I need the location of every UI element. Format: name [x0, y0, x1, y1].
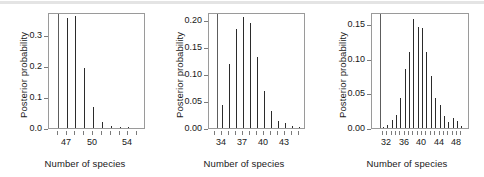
spike-bar: [222, 105, 223, 128]
x-axis-minor-tick: [256, 131, 257, 135]
spike-bar: [128, 127, 129, 128]
spike-bar: [435, 98, 436, 128]
x-axis-minor-tick: [404, 131, 405, 135]
panel-3-x-axis-title: Number of species: [342, 158, 472, 169]
y-axis-tick-label: 0.05: [176, 96, 202, 106]
x-axis-minor-tick: [235, 131, 236, 135]
x-axis-tick-label: 48: [444, 137, 468, 147]
spike-bar: [236, 29, 237, 128]
x-axis-minor-tick: [110, 131, 111, 135]
panel-1: Posterior probability Number of species …: [0, 0, 161, 177]
y-axis-tick-label: 0.15: [339, 19, 365, 29]
spike-bar: [67, 18, 68, 128]
x-axis-minor-tick: [417, 131, 418, 135]
y-axis-tick: [44, 36, 48, 37]
spike-bar: [405, 69, 406, 128]
x-axis-minor-tick: [456, 131, 457, 135]
panel-3-plot-area: [371, 13, 469, 129]
spike-bar: [84, 68, 85, 128]
x-axis-minor-tick: [221, 131, 222, 135]
x-axis-minor-tick: [127, 131, 128, 135]
panel-1-y-axis-title: Posterior probability: [18, 32, 29, 118]
posterior-probability-figure: Posterior probability Number of species …: [0, 0, 484, 177]
spike-bar: [444, 116, 445, 128]
panel-1-plot-area: [48, 13, 145, 129]
spike-bar: [440, 105, 441, 128]
panel-2-reference-line: [217, 14, 218, 128]
x-axis-minor-tick: [228, 131, 229, 135]
spike-bar: [299, 127, 300, 128]
x-axis-minor-tick: [439, 131, 440, 135]
x-axis-minor-tick: [395, 131, 396, 135]
x-axis-tick-label: 43: [272, 137, 296, 147]
y-axis-tick: [44, 129, 48, 130]
panel-3-reference-line: [380, 14, 381, 128]
spike-bar: [264, 91, 265, 128]
x-axis-minor-tick: [399, 131, 400, 135]
spike-bar: [75, 16, 76, 128]
spike-bar: [426, 52, 427, 128]
x-axis-tick-label: 54: [115, 137, 139, 147]
x-axis-minor-tick: [57, 131, 58, 135]
panel-2-spikes: [209, 14, 304, 128]
x-axis-minor-tick: [119, 131, 120, 135]
x-axis-minor-tick: [242, 131, 243, 135]
x-axis-minor-tick: [136, 131, 137, 135]
x-axis-tick-label: 47: [54, 137, 78, 147]
spike-bar: [448, 122, 449, 128]
spike-bar: [422, 28, 423, 128]
x-axis-minor-tick: [101, 131, 102, 135]
y-axis-tick-label: 0.20: [176, 15, 202, 25]
y-axis-tick: [204, 102, 208, 103]
spike-bar: [243, 17, 244, 128]
spike-bar: [93, 107, 94, 128]
spike-bar: [278, 121, 279, 128]
x-axis-minor-tick: [460, 131, 461, 135]
y-axis-tick-label: 0.00: [176, 123, 202, 133]
y-axis-tick: [204, 129, 208, 130]
x-axis-minor-tick: [277, 131, 278, 135]
x-axis-minor-tick: [408, 131, 409, 135]
spike-bar: [453, 118, 454, 128]
y-axis-tick-label: 0.05: [339, 88, 365, 98]
spike-bar: [257, 57, 258, 128]
spike-bar: [392, 120, 393, 128]
y-axis-tick-label: 0.0: [22, 123, 42, 133]
x-axis-minor-tick: [447, 131, 448, 135]
x-axis-minor-tick: [443, 131, 444, 135]
x-axis-minor-tick: [452, 131, 453, 135]
y-axis-tick-label: 0.3: [22, 30, 42, 40]
panel-1-x-axis-title: Number of species: [20, 158, 150, 169]
x-axis-minor-tick: [74, 131, 75, 135]
panel-1-spikes: [49, 14, 144, 128]
y-axis-tick: [367, 129, 371, 130]
panel-2-plot-area: [208, 13, 305, 129]
spike-bar: [120, 127, 121, 128]
y-axis-tick-label: 0.15: [176, 42, 202, 52]
y-axis-tick: [367, 60, 371, 61]
x-axis-minor-tick: [83, 131, 84, 135]
x-axis-minor-tick: [425, 131, 426, 135]
y-axis-tick: [204, 75, 208, 76]
x-axis-minor-tick: [298, 131, 299, 135]
panel-2: Posterior probability Number of species …: [161, 0, 322, 177]
y-axis-tick-label: 0.10: [339, 54, 365, 64]
spike-bar: [285, 123, 286, 128]
spike-bar: [387, 125, 388, 128]
x-axis-minor-tick: [66, 131, 67, 135]
spike-bar: [271, 111, 272, 128]
y-axis-tick: [204, 48, 208, 49]
x-axis-minor-tick: [249, 131, 250, 135]
x-axis-minor-tick: [430, 131, 431, 135]
y-axis-tick-label: 0.2: [22, 61, 42, 71]
x-axis-minor-tick: [382, 131, 383, 135]
y-axis-tick-label: 0.00: [339, 123, 365, 133]
spike-bar: [292, 126, 293, 128]
spike-bar: [229, 64, 230, 128]
y-axis-tick: [204, 21, 208, 22]
spike-bar: [396, 115, 397, 128]
x-axis-minor-tick: [92, 131, 93, 135]
x-axis-minor-tick: [421, 131, 422, 135]
spike-bar: [409, 52, 410, 128]
x-axis-minor-tick: [386, 131, 387, 135]
